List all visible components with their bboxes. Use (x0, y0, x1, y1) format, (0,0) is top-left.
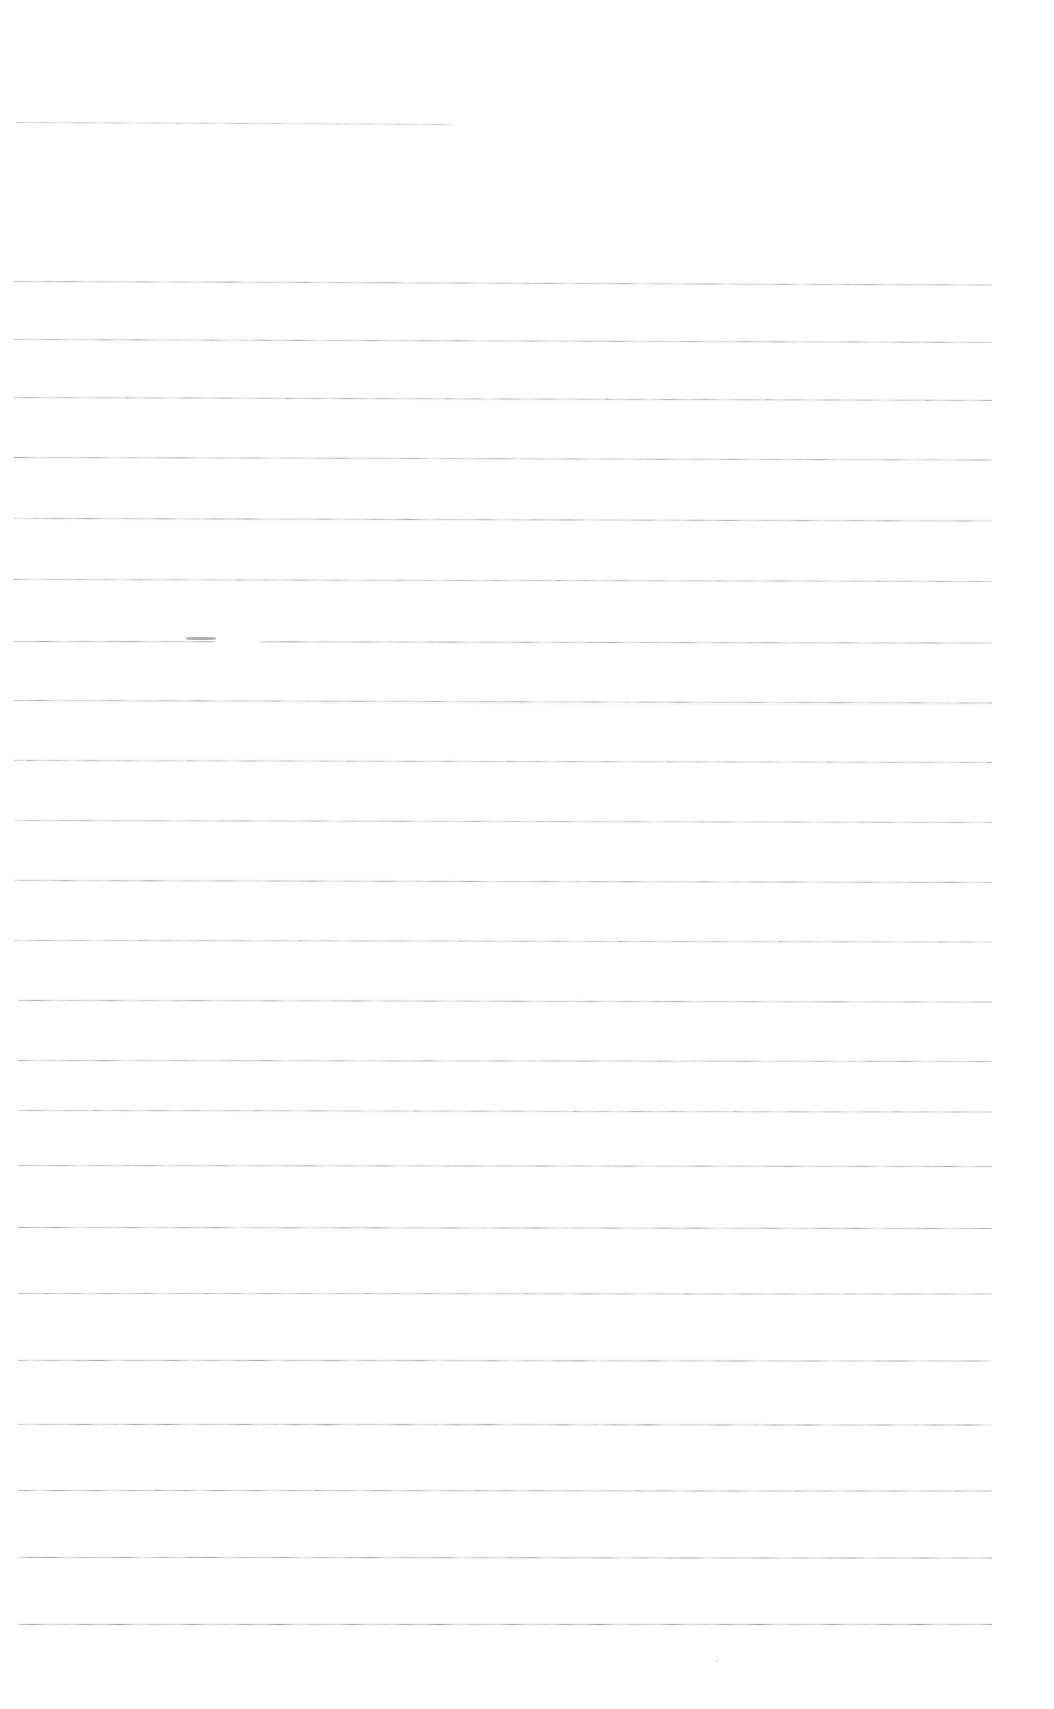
ruled-line-halo (18, 999, 992, 1003)
ruled-line-halo (18, 1059, 992, 1063)
ruled-line (14, 518, 992, 522)
ruled-line (14, 397, 992, 401)
page-text-content (0, 0, 1, 1)
ruled-line-stroke (14, 518, 992, 522)
ruled-line (18, 1557, 992, 1559)
ruled-line-stroke (18, 1000, 992, 1002)
ruled-line-halo (18, 1359, 992, 1362)
ruled-line-stroke (18, 1424, 992, 1426)
ruled-line (18, 1227, 992, 1229)
ruled-line-halo (18, 1489, 992, 1492)
ruled-line-halo (18, 1556, 992, 1559)
ruled-line-stroke (14, 457, 992, 461)
ruled-line (18, 1293, 992, 1295)
ruled-line-halo (14, 456, 992, 462)
ruled-line-stroke (14, 940, 992, 943)
ruled-line (14, 700, 992, 704)
ruled-line (14, 940, 992, 943)
ruled-line-halo (18, 1164, 992, 1168)
paper-speck (716, 1660, 718, 1662)
ruled-line-stroke (18, 1360, 992, 1362)
ruled-line-halo (14, 939, 992, 944)
ruled-line-halo (18, 1226, 992, 1230)
ruled-line-halo (18, 1292, 992, 1295)
ink-smudge (186, 637, 216, 640)
ruled-line (18, 1490, 992, 1492)
ruled-line-halo (18, 1623, 992, 1626)
ruled-line (14, 281, 992, 285)
ruled-line-halo (14, 640, 992, 645)
ruled-line-stroke (18, 1227, 992, 1229)
ruled-line (14, 641, 992, 644)
ruled-line-halo (18, 1109, 992, 1113)
ruled-line (14, 880, 992, 883)
ruled-line (16, 122, 452, 125)
scanned-page (0, 0, 1054, 1709)
ruled-line-stroke (14, 641, 992, 644)
ruled-line-halo (14, 280, 992, 286)
ruled-line (18, 1000, 992, 1002)
ruled-line-stroke (14, 281, 992, 285)
ruled-line-halo (14, 819, 992, 824)
paper-surface (0, 0, 1054, 1709)
ruled-line (14, 457, 992, 461)
ruled-line (18, 1424, 992, 1426)
ruled-line-halo (14, 338, 992, 344)
ruled-line-stroke (14, 820, 992, 823)
ruled-line-stroke (14, 579, 992, 582)
ruled-line (14, 760, 992, 763)
ruled-line-halo (14, 578, 992, 583)
ruled-line (18, 1060, 992, 1062)
ruled-line-halo (14, 517, 992, 523)
ruled-line-stroke (18, 1060, 992, 1062)
ruled-line-stroke (14, 880, 992, 883)
ruled-line-stroke (14, 339, 992, 343)
ruled-line (18, 1165, 992, 1167)
ruled-line (14, 339, 992, 343)
ruled-line (18, 1110, 992, 1112)
ruled-line-halo (18, 1423, 992, 1426)
ruled-line (14, 820, 992, 823)
ruled-line-stroke (16, 122, 452, 125)
ruled-line-halo (16, 121, 452, 126)
ruled-line-stroke (14, 700, 992, 704)
ruled-line-stroke (18, 1165, 992, 1167)
ruled-line-stroke (14, 397, 992, 401)
ruled-line-stroke (18, 1624, 992, 1625)
ruled-line-halo (14, 699, 992, 705)
ruled-line (18, 1624, 992, 1625)
ruled-line-halo (14, 396, 992, 402)
ruled-line-stroke (18, 1490, 992, 1492)
ruled-line-stroke (18, 1293, 992, 1295)
ruled-line-stroke (18, 1110, 992, 1112)
ruled-line (18, 1360, 992, 1362)
ruled-line-stroke (14, 760, 992, 763)
ruled-line-stroke (18, 1557, 992, 1559)
ruled-line-halo (14, 879, 992, 884)
ruled-line-halo (14, 759, 992, 764)
ruled-line (14, 579, 992, 582)
ruled-line-break-gap (215, 636, 259, 644)
